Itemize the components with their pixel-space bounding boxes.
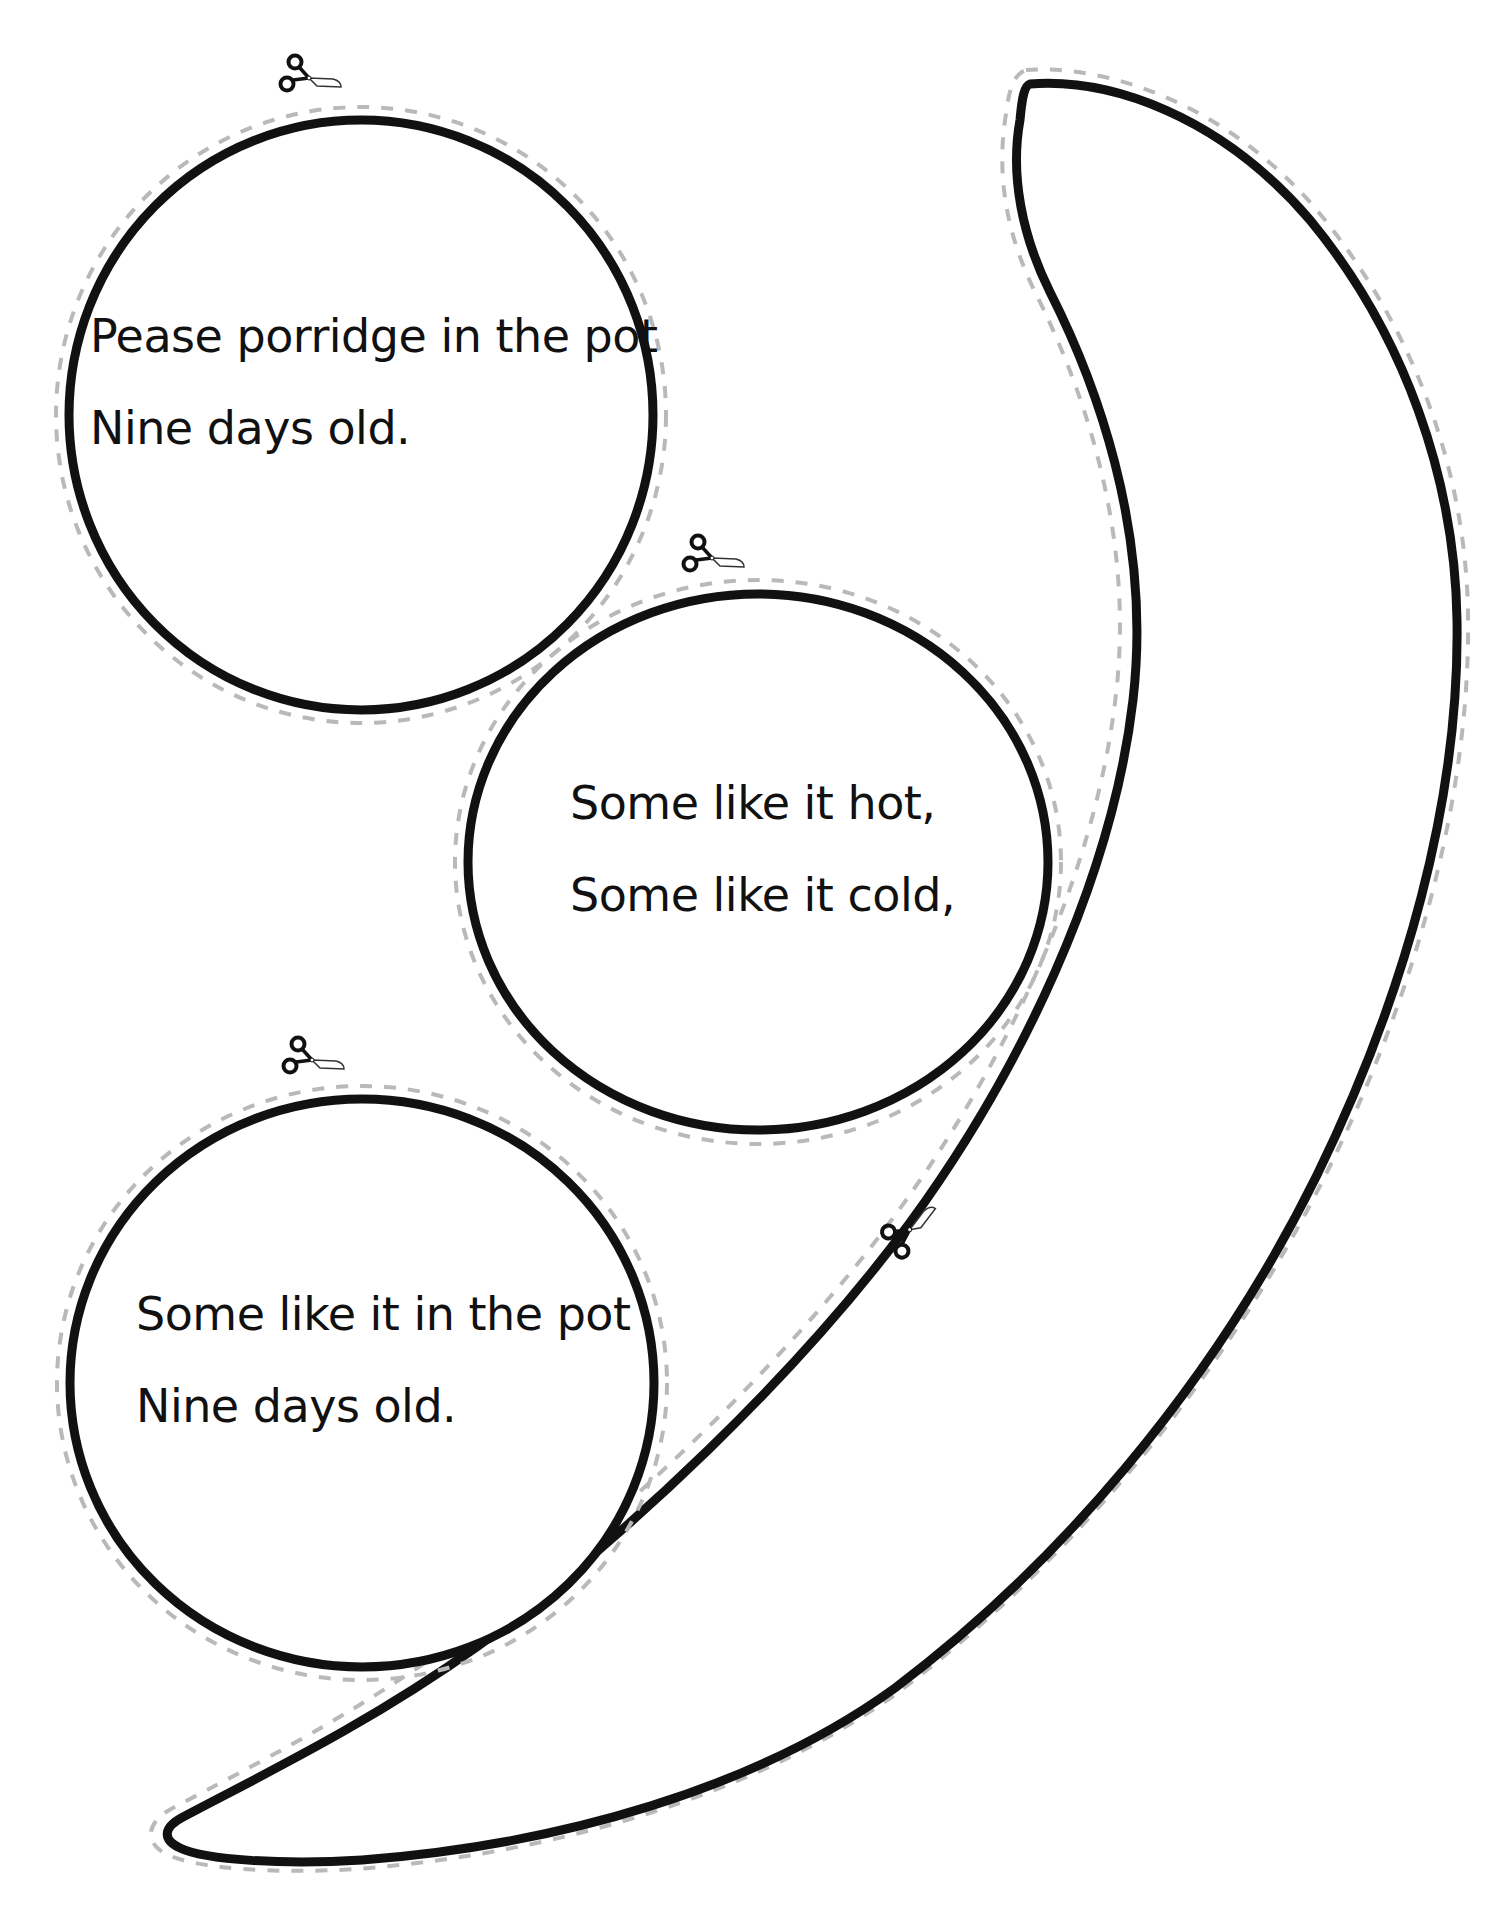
cutout-artwork (0, 0, 1493, 1926)
scissors-icon (684, 536, 745, 571)
verse-line: Nine days old. (136, 1360, 631, 1452)
verse-line: Some like it hot, (570, 757, 955, 849)
verse-line: Nine days old. (90, 382, 658, 474)
circle-1-text: Pease porridge in the pot Nine days old. (90, 290, 658, 474)
verse-line: Some like it cold, (570, 849, 955, 941)
circle-3-text: Some like it in the pot Nine days old. (136, 1268, 631, 1452)
scissors-icon (284, 1038, 345, 1073)
verse-line: Pease porridge in the pot (90, 290, 658, 382)
circle-2-text: Some like it hot, Some like it cold, (570, 757, 955, 941)
verse-line: Some like it in the pot (136, 1268, 631, 1360)
scissors-icon (281, 56, 342, 91)
